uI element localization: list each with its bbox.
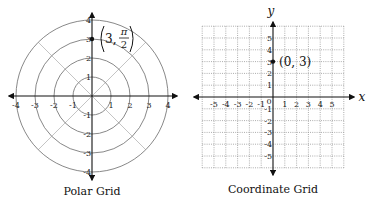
tick-label: 5	[329, 100, 334, 109]
figure: -4 -3 -2 -1 1 2 3 4 4 3 2 1 -1 -2 -3 -4 …	[0, 0, 371, 201]
tick-label: 2	[267, 69, 272, 78]
polar-x-tick-labels: -4 -3 -2 -1 1 2 3 4	[12, 101, 170, 110]
tick-label: -4	[222, 100, 230, 109]
tick-label: -3	[83, 149, 91, 158]
y-axis-label: y	[267, 4, 275, 18]
polar-grid: -4 -3 -2 -1 1 2 3 4 4 3 2 1 -1 -2 -3 -4 …	[9, 13, 177, 198]
tick-label: 4	[165, 101, 170, 110]
coordinate-grid-caption: Coordinate Grid	[228, 183, 318, 196]
tick-label: 3	[306, 100, 311, 109]
theta-numerator: π	[120, 26, 128, 37]
tick-label: -1	[264, 105, 272, 114]
tick-label: 5	[267, 34, 272, 43]
tick-label: -4	[264, 140, 272, 149]
tick-label: 3	[146, 101, 151, 110]
tick-label: 4	[318, 100, 323, 109]
tick-label: 1	[282, 100, 287, 109]
tick-label: -1	[83, 111, 91, 120]
x-axis-label: x	[359, 90, 366, 104]
theta-denominator: 2	[121, 39, 127, 50]
tick-label: 4	[86, 16, 91, 25]
tick-label: -4	[12, 101, 20, 110]
tick-label: 2	[127, 101, 132, 110]
tick-label: -3	[234, 100, 242, 109]
tick-label: -3	[31, 101, 39, 110]
tick-label: 1	[108, 101, 113, 110]
tick-label: -5	[210, 100, 218, 109]
tick-label: -2	[50, 101, 58, 110]
point-r-value: 3,	[105, 32, 116, 46]
tick-label: 2	[294, 100, 299, 109]
tick-label: 4	[267, 46, 272, 55]
tick-label: -3	[264, 128, 272, 137]
tick-label: 1	[267, 81, 272, 90]
tick-label: -1	[69, 101, 77, 110]
tick-label: -2	[83, 130, 91, 139]
polar-point	[90, 37, 94, 41]
tick-label: -4	[83, 168, 91, 177]
coordinate-point-label: (0, 3)	[279, 55, 311, 69]
tick-label: 1	[86, 73, 91, 82]
coordinate-grid: x y -5 -4 -3 -2 -1 1 2 3 4 5 0 5 4 3 2 1…	[194, 4, 366, 196]
polar-grid-caption: Polar Grid	[63, 185, 120, 198]
tick-label: -2	[246, 100, 254, 109]
tick-label: -2	[264, 117, 272, 126]
tick-label: 2	[86, 54, 91, 63]
x-tick-labels: -5 -4 -3 -2 -1 1 2 3 4 5	[210, 100, 334, 109]
tick-label: -5	[264, 152, 272, 161]
polar-point-label: 3, π 2	[101, 26, 133, 52]
coordinate-point	[271, 59, 275, 63]
